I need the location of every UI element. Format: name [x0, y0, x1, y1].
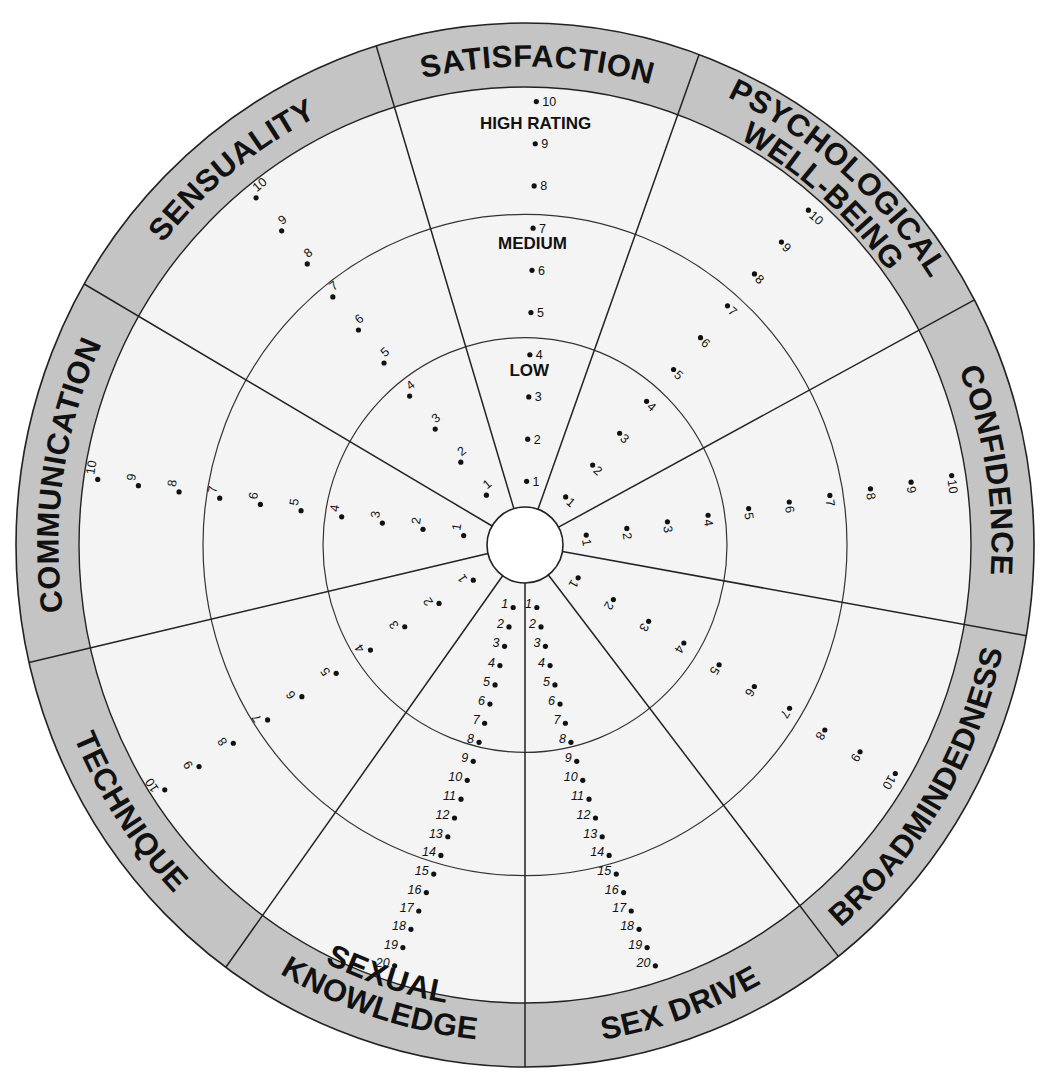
rating-dot[interactable] — [584, 532, 589, 537]
rating-dot[interactable] — [471, 578, 476, 583]
rating-dot[interactable] — [433, 426, 438, 431]
rating-dot[interactable] — [381, 360, 386, 365]
rating-dot[interactable] — [176, 489, 181, 494]
rating-dot[interactable] — [636, 927, 641, 932]
rating-dot[interactable] — [563, 494, 568, 499]
rating-dot[interactable] — [563, 721, 568, 726]
rating-dot[interactable] — [552, 682, 557, 687]
rating-dot[interactable] — [458, 797, 463, 802]
rating-dot[interactable] — [492, 682, 497, 687]
rating-dot[interactable] — [330, 294, 335, 299]
rating-dot[interactable] — [502, 644, 507, 649]
rating-dot[interactable] — [392, 963, 397, 968]
rating-dot[interactable] — [408, 927, 413, 932]
rating-dot[interactable] — [533, 141, 538, 146]
rating-dot[interactable] — [568, 740, 573, 745]
rating-dot[interactable] — [752, 271, 757, 276]
rating-dot[interactable] — [529, 268, 534, 273]
rating-dot[interactable] — [95, 477, 100, 482]
rating-dot[interactable] — [532, 183, 537, 188]
rating-dot[interactable] — [857, 749, 862, 754]
rating-dot[interactable] — [368, 647, 373, 652]
rating-dot[interactable] — [590, 462, 595, 467]
rating-dot[interactable] — [868, 486, 873, 491]
rating-dot[interactable] — [424, 890, 429, 895]
rating-dot[interactable] — [476, 740, 481, 745]
rating-dot[interactable] — [484, 493, 489, 498]
rating-dot[interactable] — [527, 352, 532, 357]
rating-dot[interactable] — [671, 367, 676, 372]
rating-dot[interactable] — [644, 399, 649, 404]
rating-dot[interactable] — [400, 945, 405, 950]
rating-dot[interactable] — [196, 764, 201, 769]
rating-dot[interactable] — [356, 327, 361, 332]
rating-dot[interactable] — [438, 853, 443, 858]
rating-dot[interactable] — [482, 721, 487, 726]
rating-dot[interactable] — [511, 605, 516, 610]
rating-dot[interactable] — [705, 513, 710, 518]
rating-dot[interactable] — [506, 624, 511, 629]
rating-dot[interactable] — [698, 335, 703, 340]
rating-dot[interactable] — [629, 908, 634, 913]
rating-dot[interactable] — [407, 393, 412, 398]
rating-dot[interactable] — [908, 480, 913, 485]
rating-dot[interactable] — [465, 778, 470, 783]
rating-dot[interactable] — [334, 671, 339, 676]
rating-dot[interactable] — [299, 694, 304, 699]
rating-dot[interactable] — [258, 502, 263, 507]
rating-dot[interactable] — [298, 508, 303, 513]
rating-dot[interactable] — [611, 597, 616, 602]
rating-dot[interactable] — [279, 228, 284, 233]
rating-dot[interactable] — [305, 261, 310, 266]
rating-dot[interactable] — [827, 493, 832, 498]
rating-dot[interactable] — [339, 514, 344, 519]
rating-dot[interactable] — [593, 815, 598, 820]
rating-dot[interactable] — [787, 706, 792, 711]
rating-dot[interactable] — [538, 624, 543, 629]
rating-dot[interactable] — [461, 533, 466, 538]
rating-dot[interactable] — [543, 644, 548, 649]
rating-dot[interactable] — [231, 741, 236, 746]
rating-dot[interactable] — [380, 521, 385, 526]
rating-dot[interactable] — [136, 483, 141, 488]
rating-dot[interactable] — [528, 310, 533, 315]
rating-dot[interactable] — [576, 575, 581, 580]
rating-dot[interactable] — [752, 684, 757, 689]
rating-dot[interactable] — [949, 473, 954, 478]
rating-dot[interactable] — [822, 727, 827, 732]
rating-dot[interactable] — [525, 437, 530, 442]
rating-dot[interactable] — [534, 99, 539, 104]
rating-dot[interactable] — [162, 787, 167, 792]
rating-dot[interactable] — [725, 303, 730, 308]
rating-dot[interactable] — [452, 815, 457, 820]
rating-dot[interactable] — [646, 619, 651, 624]
rating-dot[interactable] — [253, 195, 258, 200]
rating-dot[interactable] — [787, 499, 792, 504]
rating-dot[interactable] — [645, 945, 650, 950]
rating-dot[interactable] — [746, 506, 751, 511]
rating-dot[interactable] — [665, 519, 670, 524]
rating-dot[interactable] — [431, 871, 436, 876]
rating-dot[interactable] — [580, 778, 585, 783]
rating-dot[interactable] — [530, 226, 535, 231]
rating-dot[interactable] — [607, 853, 612, 858]
rating-dot[interactable] — [416, 908, 421, 913]
rating-dot[interactable] — [436, 601, 441, 606]
rating-dot[interactable] — [420, 527, 425, 532]
rating-dot[interactable] — [526, 394, 531, 399]
rating-dot[interactable] — [445, 834, 450, 839]
rating-dot[interactable] — [681, 640, 686, 645]
rating-dot[interactable] — [265, 717, 270, 722]
rating-dot[interactable] — [547, 663, 552, 668]
rating-dot[interactable] — [574, 759, 579, 764]
rating-dot[interactable] — [586, 797, 591, 802]
rating-dot[interactable] — [617, 431, 622, 436]
rating-dot[interactable] — [402, 624, 407, 629]
rating-dot[interactable] — [624, 526, 629, 531]
rating-dot[interactable] — [217, 496, 222, 501]
rating-dot[interactable] — [806, 208, 811, 213]
rating-dot[interactable] — [471, 759, 476, 764]
rating-dot[interactable] — [534, 605, 539, 610]
rating-dot[interactable] — [621, 890, 626, 895]
rating-dot[interactable] — [497, 663, 502, 668]
